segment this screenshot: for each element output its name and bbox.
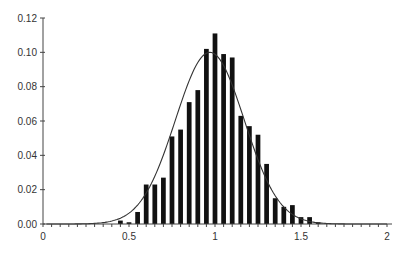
x-tick-label: 1 xyxy=(212,231,218,242)
y-tick-label: 0.08 xyxy=(18,81,38,92)
x-tick-label: 0 xyxy=(40,231,46,242)
histogram-bar xyxy=(230,57,235,224)
histogram-bar xyxy=(204,49,209,224)
histogram-bar xyxy=(273,198,278,224)
y-tick-label: 0.02 xyxy=(18,184,38,195)
x-axis: 00.511.52 xyxy=(40,224,392,242)
y-axis: 0.000.020.040.060.080.100.12 xyxy=(18,13,45,230)
histogram-chart: 0.000.020.040.060.080.100.12 00.511.52 xyxy=(0,0,409,254)
histogram-bar xyxy=(118,221,123,224)
x-tick-label: 2 xyxy=(384,231,390,242)
histogram-bar xyxy=(221,54,226,224)
histogram-bar xyxy=(256,135,261,224)
y-tick-label: 0.10 xyxy=(18,47,38,58)
histogram-bar xyxy=(170,136,175,224)
y-tick-label: 0.04 xyxy=(18,150,38,161)
histogram-bar xyxy=(195,90,200,224)
x-tick-label: 1.5 xyxy=(294,231,308,242)
histogram-bar xyxy=(178,130,183,224)
histogram-bar xyxy=(135,212,140,224)
x-tick-label: 0.5 xyxy=(122,231,136,242)
histogram-bar xyxy=(213,33,218,224)
histogram-bars xyxy=(118,33,321,224)
y-tick-label: 0.06 xyxy=(18,116,38,127)
histogram-bar xyxy=(187,102,192,224)
y-tick-label: 0.12 xyxy=(18,13,38,24)
histogram-bar xyxy=(161,178,166,224)
y-tick-label: 0.00 xyxy=(18,219,38,230)
histogram-bar xyxy=(238,116,243,224)
histogram-bar xyxy=(152,185,157,224)
histogram-bar xyxy=(264,164,269,224)
